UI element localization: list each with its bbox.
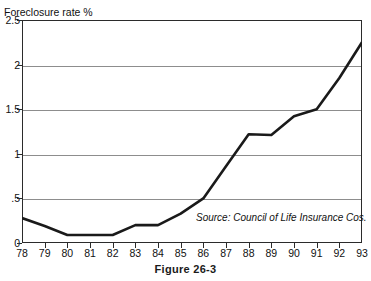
x-tick-mark: [339, 243, 340, 248]
x-tick-label: 87: [215, 248, 237, 259]
y-tick-label: 0: [0, 238, 20, 248]
x-tick-label: 86: [192, 248, 214, 259]
x-tick-mark: [271, 243, 272, 248]
source-annotation: Source: Council of Life Insurance Cos.: [196, 212, 367, 223]
x-tick-label: 91: [306, 248, 328, 259]
x-tick-label: 81: [79, 248, 101, 259]
y-tick-mark: [17, 243, 22, 244]
x-tick-label: 92: [328, 248, 350, 259]
x-tick-label: 85: [170, 248, 192, 259]
figure-container: Foreclosure rate % 0.511.522.5 787980818…: [0, 0, 371, 281]
foreclosure-rate-line: [22, 42, 362, 235]
x-tick-label: 90: [283, 248, 305, 259]
y-axis-title: Foreclosure rate %: [4, 6, 93, 18]
y-tick-label: 1.5: [0, 104, 20, 114]
x-tick-mark: [317, 243, 318, 248]
y-tick-label: 2: [0, 60, 20, 70]
x-tick-label: 89: [260, 248, 282, 259]
x-tick-label: 88: [238, 248, 260, 259]
x-tick-mark: [158, 243, 159, 248]
x-tick-mark: [90, 243, 91, 248]
y-tick-label: .5: [0, 193, 20, 203]
figure-caption: Figure 26-3: [0, 263, 371, 275]
x-tick-mark: [181, 243, 182, 248]
y-tick-label: 1: [0, 149, 20, 159]
x-tick-label: 93: [351, 248, 371, 259]
x-tick-mark: [203, 243, 204, 248]
x-tick-mark: [249, 243, 250, 248]
data-series-line: [22, 20, 362, 243]
x-tick-label: 79: [34, 248, 56, 259]
x-tick-label: 78: [11, 248, 33, 259]
x-tick-label: 82: [102, 248, 124, 259]
x-tick-mark: [294, 243, 295, 248]
x-tick-mark: [135, 243, 136, 248]
x-tick-mark: [226, 243, 227, 248]
x-tick-mark: [67, 243, 68, 248]
x-tick-label: 84: [147, 248, 169, 259]
x-tick-mark: [45, 243, 46, 248]
x-tick-label: 83: [124, 248, 146, 259]
x-tick-label: 80: [56, 248, 78, 259]
x-tick-mark: [113, 243, 114, 248]
